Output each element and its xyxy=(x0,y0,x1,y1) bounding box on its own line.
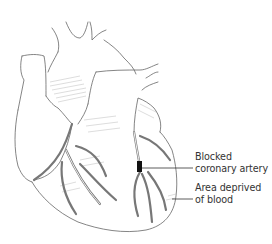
right-atrium xyxy=(15,55,72,183)
aorta xyxy=(48,22,136,74)
blockage-marker xyxy=(137,161,142,172)
heart-diagram: Blocked coronary artery Area deprived of… xyxy=(0,0,272,244)
label-line: Area deprived xyxy=(195,182,261,194)
label-blocked-coronary-artery: Blocked coronary artery xyxy=(195,151,268,174)
label-line: Blocked xyxy=(195,151,268,163)
pulmonary-artery xyxy=(88,64,158,104)
label-line: coronary artery xyxy=(195,163,268,175)
label-line: of blood xyxy=(195,194,261,206)
heart-illustration xyxy=(0,0,272,244)
label-area-deprived-of-blood: Area deprived of blood xyxy=(195,182,261,205)
ventricles xyxy=(32,98,177,232)
